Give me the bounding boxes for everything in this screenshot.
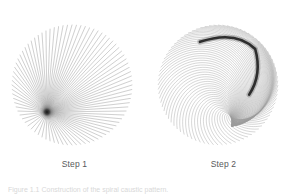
burst-ray: [47, 44, 116, 112]
figure-caption: Figure 1.1 Construction of the spiral ca…: [8, 185, 294, 194]
focal-point: [39, 104, 56, 121]
step-1-label: Step 1: [0, 159, 149, 170]
step-2-label: Step 2: [149, 159, 298, 170]
burst-ray: [47, 112, 113, 129]
spiral-arc: [159, 63, 241, 126]
spiral-caustic-diagram: [149, 0, 298, 150]
radial-burst-diagram: [0, 0, 149, 150]
figure-page: Step 1 Step 2 Figure 1.1 Construction of…: [0, 0, 298, 196]
figure-panel-step-2: [149, 0, 298, 150]
burst-ray: [47, 26, 81, 112]
figure-panel-step-1: [0, 0, 149, 150]
